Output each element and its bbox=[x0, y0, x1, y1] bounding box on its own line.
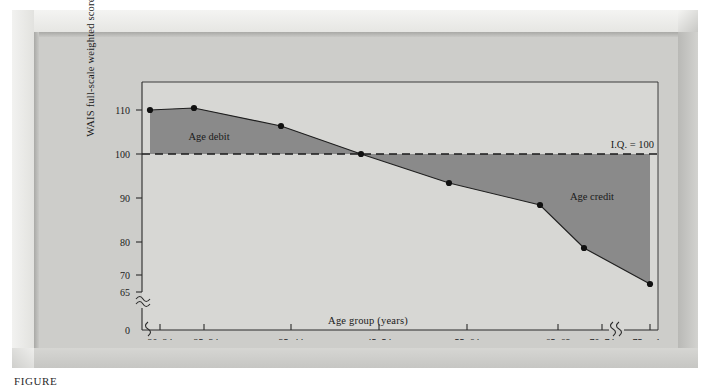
frame-inner-shadow-top bbox=[34, 32, 678, 37]
data-point bbox=[647, 281, 653, 287]
frame-bevel-left bbox=[12, 10, 34, 368]
frame-bevel-bottom bbox=[12, 348, 698, 368]
frame-bevel-corner-bottomleft bbox=[12, 348, 34, 368]
y-tick-label: 90 bbox=[120, 193, 130, 204]
frame-inner-shadow-left bbox=[34, 32, 39, 348]
x-tick-label: 70–74 bbox=[590, 337, 615, 340]
y-tick-label: 110 bbox=[115, 105, 130, 116]
x-tick-label: 65–69 bbox=[546, 337, 571, 340]
x-tick-label: 75 and over bbox=[632, 337, 672, 340]
y-axis-tick-labels: 110 100 90 80 70 65 0 bbox=[115, 105, 130, 336]
x-tick-label: 45–54 bbox=[367, 337, 392, 340]
annotation-age-credit: Age credit bbox=[570, 191, 614, 202]
figure-root: WAIS full-scale weighted score Age group… bbox=[0, 0, 710, 385]
x-tick-label: 20–24 bbox=[148, 337, 173, 340]
annotation-iq-line: I.Q. = 100 bbox=[611, 139, 654, 150]
y-tick-label: 80 bbox=[120, 237, 130, 248]
x-axis-tick-labels: 20–24 25–34 35–44 45–54 55–64 65–69 70–7… bbox=[148, 337, 673, 340]
data-point bbox=[446, 180, 452, 186]
figure-caption: FIGURE bbox=[14, 375, 57, 385]
y-tick-label: 70 bbox=[120, 270, 130, 281]
y-tick-label: 100 bbox=[115, 149, 130, 160]
chart-area: WAIS full-scale weighted score Age group… bbox=[64, 60, 672, 340]
frame-bevel-top bbox=[12, 10, 698, 32]
data-point bbox=[358, 151, 364, 157]
x-axis-title: Age group (years) bbox=[64, 315, 672, 326]
data-point bbox=[147, 107, 153, 113]
y-axis-title: WAIS full-scale weighted score bbox=[85, 0, 96, 152]
data-point bbox=[191, 105, 197, 111]
figure-frame-outer: WAIS full-scale weighted score Age group… bbox=[12, 10, 698, 368]
data-point bbox=[537, 202, 543, 208]
chart-svg: 110 100 90 80 70 65 0 bbox=[64, 60, 672, 340]
data-point bbox=[278, 123, 284, 129]
data-point bbox=[581, 245, 587, 251]
x-tick-label: 25–34 bbox=[194, 337, 219, 340]
y-tick-label: 0 bbox=[125, 325, 130, 336]
figure-frame-inner: WAIS full-scale weighted score Age group… bbox=[34, 32, 678, 348]
y-tick-label: 65 bbox=[120, 287, 130, 298]
x-tick-label: 55–64 bbox=[455, 337, 480, 340]
figure-caption-number: FIGURE bbox=[14, 375, 57, 385]
x-tick-label: 35–44 bbox=[279, 337, 304, 340]
y-axis-ticks bbox=[136, 110, 142, 292]
annotation-age-debit: Age debit bbox=[188, 131, 229, 142]
frame-bevel-right bbox=[678, 10, 698, 368]
frame-bevel-corner-topright bbox=[678, 10, 698, 32]
